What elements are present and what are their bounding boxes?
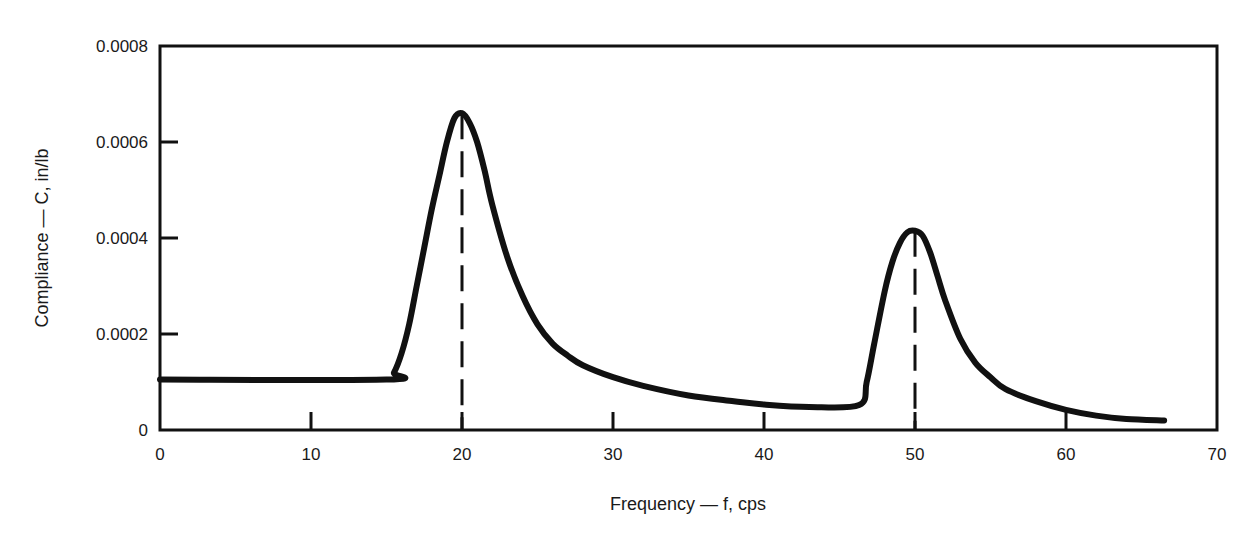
y-tick-label: 0.0002 [96, 325, 148, 344]
x-tick-label: 0 [155, 445, 164, 464]
x-tick-label: 70 [1208, 445, 1227, 464]
y-tick-label: 0.0006 [96, 133, 148, 152]
x-tick-label: 10 [302, 445, 321, 464]
y-axis-title: Compliance — C, in/lb [32, 148, 52, 327]
compliance-frequency-chart: Compliance — C, in/lb Frequency — f, cps… [0, 0, 1258, 551]
dashed-resonance-lines [462, 113, 915, 430]
x-tick-label: 40 [755, 445, 774, 464]
axis-ticks: 01020304050607000.00020.00040.00060.0008 [96, 37, 1226, 464]
y-axis-title-group: Compliance — C, in/lb [32, 148, 52, 327]
x-axis-title: Frequency — f, cps [610, 494, 766, 514]
y-tick-label: 0.0004 [96, 229, 148, 248]
x-tick-label: 30 [604, 445, 623, 464]
compliance-curve [160, 113, 1164, 420]
y-tick-label: 0 [139, 421, 148, 440]
x-tick-label: 50 [906, 445, 925, 464]
x-tick-label: 20 [453, 445, 472, 464]
y-tick-label: 0.0008 [96, 37, 148, 56]
x-tick-label: 60 [1057, 445, 1076, 464]
plot-frame [160, 46, 1217, 430]
